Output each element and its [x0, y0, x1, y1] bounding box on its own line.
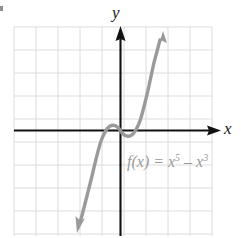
y-axis-label: y [112, 4, 120, 21]
function-term2-exponent: 3 [203, 152, 208, 163]
function-equation-label: f(x) = x5 – x3 [127, 153, 208, 170]
graph-figure: y x f(x) = x5 – x3 [0, 0, 241, 238]
coordinate-plane [0, 0, 241, 238]
x-axis-label: x [224, 120, 232, 137]
function-operator: – [180, 153, 196, 170]
function-lhs: f(x) = [127, 153, 168, 170]
